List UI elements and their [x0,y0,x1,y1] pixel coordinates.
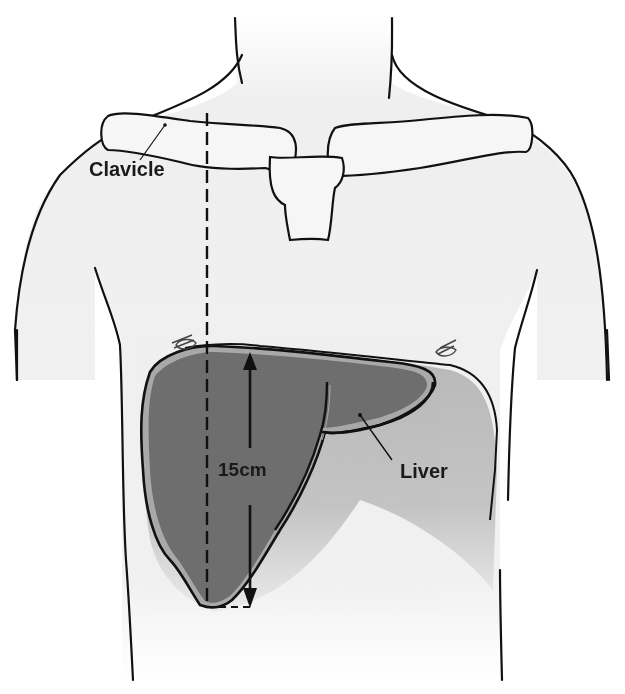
anatomy-figure: Clavicle 15cm Liver [0,0,625,694]
liver [140,340,440,610]
liver-label: Liver [400,461,448,481]
measurement-label: 15cm [218,460,267,479]
torso-illustration [0,0,625,694]
clavicle-label: Clavicle [89,159,165,179]
